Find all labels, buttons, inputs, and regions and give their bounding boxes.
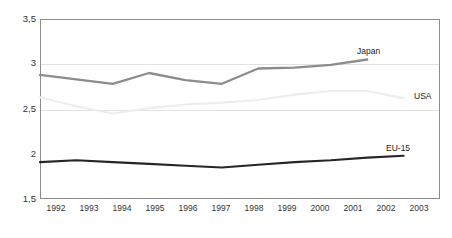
x-tick-label-1992: 1992 — [47, 203, 66, 213]
x-tick-label-2003: 2003 — [410, 203, 429, 213]
x-tick-label-1997: 1997 — [212, 203, 231, 213]
x-tick-label-1993: 1993 — [80, 203, 99, 213]
x-axis: 1992 1993 1994 1995 1996 1997 1998 1999 … — [0, 203, 452, 221]
series-line-eu15 — [40, 156, 404, 168]
series-line-usa — [40, 91, 404, 114]
x-tick-label-2002: 2002 — [377, 203, 396, 213]
x-tick-label-1994: 1994 — [113, 203, 132, 213]
x-tick-label-2000: 2000 — [311, 203, 330, 213]
series-label-usa: USA — [414, 91, 431, 101]
x-tick-label-1998: 1998 — [245, 203, 264, 213]
x-tick-label-1999: 1999 — [278, 203, 297, 213]
x-tick-label-1995: 1995 — [146, 203, 165, 213]
line-chart: 3,5 3 2,5 2 1,5 1992 1993 1994 1995 1996… — [0, 0, 452, 238]
series-line-japan — [40, 60, 367, 84]
series-label-japan: Japan — [357, 46, 380, 56]
x-tick-label-2001: 2001 — [344, 203, 363, 213]
x-tick-label-1996: 1996 — [179, 203, 198, 213]
series-label-eu15: EU-15 — [386, 143, 410, 153]
